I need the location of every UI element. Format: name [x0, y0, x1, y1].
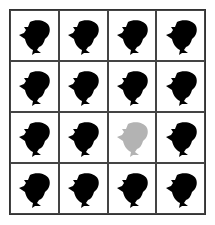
dolphin-icon [16, 169, 52, 209]
dolphin-icon [114, 169, 150, 209]
grid-cell[interactable] [10, 10, 59, 61]
dolphin-icon [163, 16, 199, 56]
grid-cell[interactable] [156, 61, 205, 112]
grid-cell[interactable] [10, 112, 59, 163]
dolphin-icon [114, 67, 150, 107]
dolphin-icon [16, 118, 52, 158]
grid-cell[interactable] [10, 61, 59, 112]
grid-cell[interactable] [59, 163, 108, 214]
grid-cell[interactable] [59, 112, 108, 163]
dolphin-icon [65, 16, 101, 56]
dolphin-icon [16, 67, 52, 107]
grid-cell[interactable] [59, 10, 108, 61]
grid-cell[interactable] [108, 112, 157, 163]
grid-cell[interactable] [156, 10, 205, 61]
dolphin-icon [163, 118, 199, 158]
dolphin-icon [65, 67, 101, 107]
dolphin-icon [114, 16, 150, 56]
grid-cell[interactable] [108, 10, 157, 61]
grid-cell[interactable] [10, 163, 59, 214]
grid-cell[interactable] [108, 61, 157, 112]
grid-cell[interactable] [156, 163, 205, 214]
dolphin-icon [65, 169, 101, 209]
dolphin-icon [163, 169, 199, 209]
grid-cell[interactable] [59, 61, 108, 112]
dolphin-icon [16, 16, 52, 56]
dolphin-grid [9, 9, 206, 215]
grid-cell[interactable] [156, 112, 205, 163]
dolphin-icon [65, 118, 101, 158]
grid-cell[interactable] [108, 163, 157, 214]
dolphin-icon [163, 67, 199, 107]
dolphin-icon [114, 118, 150, 158]
